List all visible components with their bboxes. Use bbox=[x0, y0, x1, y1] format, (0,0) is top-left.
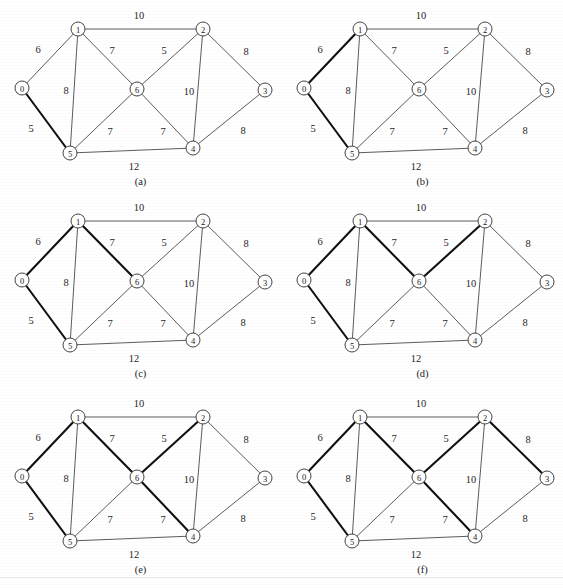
edge-1-6-panel-b bbox=[360, 29, 419, 89]
node-label-0: 0 bbox=[302, 84, 306, 94]
edge-weight-0-5-panel-a: 5 bbox=[28, 123, 33, 134]
edge-weight-0-1-panel-c: 6 bbox=[35, 236, 40, 247]
node-5-panel-b: 5 bbox=[345, 146, 359, 160]
edge-weight-4-5-panel-d: 12 bbox=[411, 353, 422, 364]
edge-weight-2-4-panel-b: 10 bbox=[466, 86, 477, 97]
edge-weight-5-6-panel-d: 7 bbox=[389, 318, 394, 329]
edge-weight-0-1-panel-f: 6 bbox=[317, 432, 322, 443]
node-label-5: 5 bbox=[350, 537, 354, 547]
figure-container: 6510875810877120123456(a)651087581087712… bbox=[0, 0, 563, 588]
edge-0-1-panel-d bbox=[304, 221, 360, 280]
edge-0-1-panel-e bbox=[22, 417, 78, 476]
edge-4-5-panel-d bbox=[352, 340, 475, 345]
edge-3-4-panel-d bbox=[475, 282, 547, 340]
edge-weight-4-6-panel-b: 7 bbox=[442, 126, 447, 137]
edge-weight-1-2-panel-c: 10 bbox=[134, 202, 145, 213]
edge-4-5-panel-b bbox=[352, 148, 475, 153]
edge-weight-5-6-panel-b: 7 bbox=[389, 126, 394, 137]
edge-weight-5-6-panel-e: 7 bbox=[107, 514, 112, 525]
edge-weight-1-2-panel-d: 10 bbox=[416, 202, 427, 213]
node-label-5: 5 bbox=[68, 149, 72, 159]
edge-weight-4-6-panel-a: 7 bbox=[160, 126, 165, 137]
graph-canvas-c: 6510875810877120123456 bbox=[0, 192, 281, 388]
edge-weight-2-4-panel-a: 10 bbox=[184, 86, 195, 97]
edge-2-6-panel-d bbox=[419, 221, 485, 281]
panel-caption-c: (c) bbox=[0, 368, 281, 379]
node-label-2: 2 bbox=[483, 413, 487, 423]
node-1-panel-d: 1 bbox=[353, 214, 367, 228]
node-label-1: 1 bbox=[76, 25, 80, 35]
edge-5-6-panel-e bbox=[70, 477, 137, 541]
node-label-2: 2 bbox=[201, 413, 205, 423]
edge-2-6-panel-f bbox=[419, 417, 485, 477]
node-3-panel-e: 3 bbox=[258, 471, 272, 485]
edge-weight-1-5-panel-b: 8 bbox=[345, 85, 350, 96]
graph-canvas-e: 6510875810877120123456 bbox=[0, 388, 281, 584]
edge-0-1-panel-f bbox=[304, 417, 360, 476]
edge-5-6-panel-d bbox=[352, 281, 419, 345]
edge-weight-0-1-panel-b: 6 bbox=[317, 44, 322, 55]
edge-1-6-panel-a bbox=[78, 29, 137, 89]
node-2-panel-b: 2 bbox=[478, 22, 492, 36]
edge-weight-4-5-panel-a: 12 bbox=[129, 161, 140, 172]
node-4-panel-a: 4 bbox=[186, 141, 200, 155]
edge-1-5-panel-b bbox=[352, 29, 360, 153]
edge-4-6-panel-c bbox=[137, 281, 193, 340]
edge-2-4-panel-b bbox=[475, 29, 485, 148]
node-label-6: 6 bbox=[135, 85, 139, 95]
edge-0-1-panel-b bbox=[304, 29, 360, 88]
edge-0-5-panel-a bbox=[22, 88, 70, 153]
edge-weight-2-3-panel-c: 8 bbox=[243, 238, 248, 249]
graph-panel-a: 6510875810877120123456(a) bbox=[0, 0, 281, 196]
edge-1-5-panel-c bbox=[70, 221, 78, 345]
edge-weight-2-3-panel-a: 8 bbox=[243, 46, 248, 57]
edge-weight-4-5-panel-b: 12 bbox=[411, 161, 422, 172]
edge-1-5-panel-d bbox=[352, 221, 360, 345]
edge-weight-1-6-panel-a: 7 bbox=[109, 45, 114, 56]
edge-weight-2-4-panel-e: 10 bbox=[184, 474, 195, 485]
edge-3-4-panel-f bbox=[475, 478, 547, 536]
panel-caption-d: (d) bbox=[282, 368, 563, 379]
edge-weight-0-1-panel-e: 6 bbox=[35, 432, 40, 443]
node-label-1: 1 bbox=[358, 25, 362, 35]
node-0-panel-a: 0 bbox=[15, 81, 29, 95]
edge-2-4-panel-e bbox=[193, 417, 203, 536]
node-3-panel-f: 3 bbox=[540, 471, 554, 485]
node-label-3: 3 bbox=[263, 474, 267, 484]
graph-canvas-d: 6510875810877120123456 bbox=[282, 192, 563, 388]
edge-4-5-panel-c bbox=[70, 340, 193, 345]
edge-weight-0-5-panel-b: 5 bbox=[310, 123, 315, 134]
node-2-panel-d: 2 bbox=[478, 214, 492, 228]
node-5-panel-d: 5 bbox=[345, 338, 359, 352]
edge-4-6-panel-d bbox=[419, 281, 475, 340]
node-3-panel-d: 3 bbox=[540, 275, 554, 289]
node-label-3: 3 bbox=[545, 86, 549, 96]
edge-weight-1-6-panel-c: 7 bbox=[109, 237, 114, 248]
edge-weight-4-5-panel-f: 12 bbox=[411, 549, 422, 560]
edge-weight-5-6-panel-c: 7 bbox=[107, 318, 112, 329]
edge-weight-4-6-panel-f: 7 bbox=[442, 514, 447, 525]
node-1-panel-c: 1 bbox=[71, 214, 85, 228]
edge-4-6-panel-a bbox=[137, 89, 193, 148]
edge-weight-1-6-panel-b: 7 bbox=[391, 45, 396, 56]
node-label-1: 1 bbox=[358, 217, 362, 227]
edge-weight-1-6-panel-d: 7 bbox=[391, 237, 396, 248]
edge-2-6-panel-e bbox=[137, 417, 203, 477]
node-6-panel-b: 6 bbox=[412, 82, 426, 96]
edge-weight-1-5-panel-c: 8 bbox=[63, 277, 68, 288]
node-6-panel-d: 6 bbox=[412, 274, 426, 288]
edge-weight-3-4-panel-d: 8 bbox=[522, 317, 527, 328]
node-4-panel-d: 4 bbox=[468, 333, 482, 347]
scan-artifact-line bbox=[0, 577, 563, 578]
edge-5-6-panel-f bbox=[352, 477, 419, 541]
edge-3-4-panel-a bbox=[193, 90, 265, 148]
edge-0-5-panel-f bbox=[304, 476, 352, 541]
node-3-panel-c: 3 bbox=[258, 275, 272, 289]
edge-2-3-panel-f bbox=[485, 417, 547, 478]
edge-3-4-panel-e bbox=[193, 478, 265, 536]
node-label-0: 0 bbox=[20, 276, 24, 286]
edge-weight-4-5-panel-c: 12 bbox=[129, 353, 140, 364]
node-0-panel-e: 0 bbox=[15, 469, 29, 483]
edge-0-5-panel-d bbox=[304, 280, 352, 345]
panel-caption-e: (e) bbox=[0, 564, 281, 575]
